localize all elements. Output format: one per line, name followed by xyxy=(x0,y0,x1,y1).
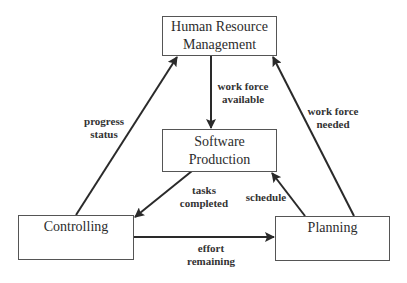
node-label: Planning xyxy=(276,217,389,237)
node-software-production: Software Production xyxy=(162,129,277,172)
node-planning: Planning xyxy=(275,216,390,261)
label-effort-remaining: effort remaining xyxy=(176,242,246,268)
label-tasks-completed: tasks completed xyxy=(174,184,234,210)
label-work-force-available: work force available xyxy=(213,80,273,106)
node-label-line2: Management xyxy=(163,36,276,54)
node-label: Controlling xyxy=(19,216,133,236)
label-line1: tasks xyxy=(174,184,234,197)
label-line1: progress xyxy=(76,115,132,128)
node-label-line2: Production xyxy=(163,151,276,169)
node-label-line1: Software xyxy=(163,130,276,151)
label-line2: available xyxy=(213,93,273,106)
label-line2: completed xyxy=(174,197,234,210)
label-line1: work force xyxy=(303,105,363,118)
label-progress-status: progress status xyxy=(76,115,132,141)
label-line1: effort xyxy=(176,242,246,255)
label-line2: remaining xyxy=(176,255,246,268)
node-label-line1: Human Resource xyxy=(163,17,276,36)
label-line2: needed xyxy=(303,118,363,131)
label-line2: status xyxy=(76,128,132,141)
label-line1: schedule xyxy=(241,191,291,204)
label-schedule: schedule xyxy=(241,191,291,204)
label-line1: work force xyxy=(213,80,273,93)
node-controlling: Controlling xyxy=(18,215,134,260)
label-work-force-needed: work force needed xyxy=(303,105,363,131)
node-human-resource-management: Human Resource Management xyxy=(162,16,277,56)
